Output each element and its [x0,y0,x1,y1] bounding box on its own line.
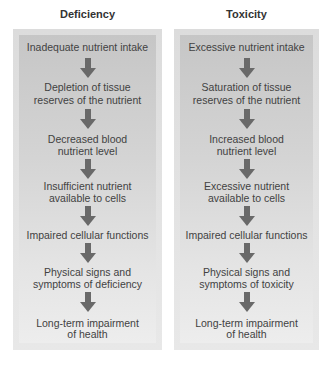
down-arrow-icon [80,206,96,226]
toxicity-step-7-line-2: of health [180,328,313,340]
toxicity-step-5: Impaired cellular functions [180,229,313,241]
deficiency-step-5: Impaired cellular functions [19,229,156,241]
deficiency-step-7-line-2: of health [19,328,156,340]
down-arrow-icon [239,206,255,226]
toxicity-step-2-line-1: Saturation of tissue [180,81,313,93]
down-arrow-icon [80,58,96,78]
down-arrow-icon [80,109,96,129]
deficiency-step-2-line-2: reserves of the nutrient [19,94,156,106]
deficiency-panel-frame: Inadequate nutrient intake Depletion of … [13,29,162,350]
toxicity-step-1: Excessive nutrient intake [180,41,313,53]
toxicity-step-4-line-1: Excessive nutrient [180,180,313,192]
deficiency-title: Deficiency [13,8,162,20]
down-arrow-icon [239,243,255,263]
down-arrow-icon [239,58,255,78]
toxicity-step-4-line-2: available to cells [180,192,313,204]
deficiency-step-6-line-2: symptoms of deficiency [19,278,156,290]
toxicity-step-2-line-2: reserves of the nutrient [180,94,313,106]
deficiency-panel: Inadequate nutrient intake Depletion of … [19,35,156,343]
toxicity-step-3-line-2: nutrient level [180,145,313,157]
down-arrow-icon [239,292,255,312]
toxicity-panel: Excessive nutrient intake Saturation of … [180,35,313,343]
toxicity-step-6-line-1: Physical signs and [180,266,313,278]
down-arrow-icon [80,243,96,263]
down-arrow-icon [80,159,96,179]
toxicity-step-3-line-1: Increased blood [180,133,313,145]
down-arrow-icon [80,292,96,312]
deficiency-step-3-line-2: nutrient level [19,145,156,157]
toxicity-step-6-line-2: symptoms of toxicity [180,278,313,290]
deficiency-step-3-line-1: Decreased blood [19,133,156,145]
deficiency-step-4-line-1: Insufficient nutrient [19,180,156,192]
deficiency-step-1: Inadequate nutrient intake [19,41,156,53]
down-arrow-icon [239,159,255,179]
deficiency-step-4-line-2: available to cells [19,192,156,204]
toxicity-title: Toxicity [174,8,319,20]
deficiency-step-6-line-1: Physical signs and [19,266,156,278]
toxicity-panel-frame: Excessive nutrient intake Saturation of … [174,29,319,350]
down-arrow-icon [239,109,255,129]
deficiency-step-2-line-1: Depletion of tissue [19,81,156,93]
